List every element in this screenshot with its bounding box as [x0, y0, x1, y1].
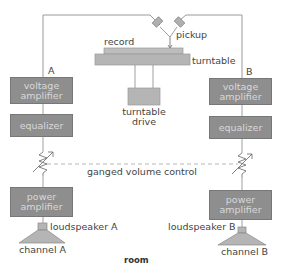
channel-b-label: channel B [221, 247, 268, 257]
voltage-amplifier-b: voltage amplifier [209, 78, 272, 105]
loudspeaker-a-label: loudspeaker A [50, 222, 118, 232]
turntable-drive-label: turntable drive [122, 107, 166, 127]
channel-a-label: channel A [19, 245, 66, 255]
channel-a-marker: A [48, 66, 55, 76]
pickup-cartridge-right-icon [174, 17, 185, 28]
record-shape [104, 48, 183, 54]
room-label: room [124, 255, 149, 265]
power-amplifier-a: power amplifier [10, 187, 73, 217]
stereo-system-diagram: record pickup turntable turntable drive … [0, 0, 286, 275]
pickup-label: pickup [176, 30, 207, 40]
power-amplifier-b: power amplifier [209, 190, 272, 220]
equalizer-b: equalizer [209, 116, 272, 139]
turntable-drive-box [128, 88, 160, 105]
loudspeaker-b-label: loudspeaker B [168, 222, 236, 232]
turntable-shape [95, 54, 190, 65]
equalizer-a: equalizer [10, 114, 73, 137]
record-label: record [104, 37, 134, 47]
voltage-amplifier-a: voltage amplifier [10, 77, 73, 104]
channel-b-marker: B [246, 67, 253, 77]
volume-control-b-icon [232, 153, 252, 178]
turntable-label: turntable [192, 56, 236, 66]
ganged-volume-control-label: ganged volume control [87, 167, 197, 177]
